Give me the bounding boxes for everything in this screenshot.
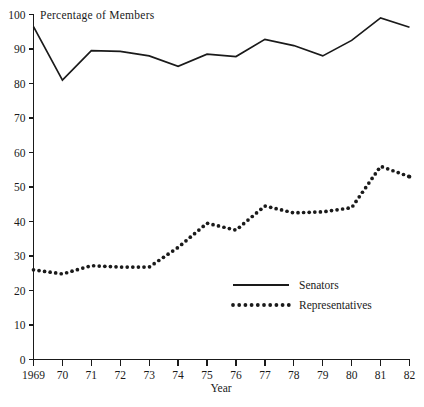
series-dot (238, 225, 242, 229)
legend-swatch-dot (237, 303, 241, 307)
series-dot (217, 224, 221, 228)
legend-label: Senators (299, 279, 339, 291)
series-dot (364, 186, 368, 190)
x-axis-tick-label: 75 (201, 369, 213, 381)
series-dot (302, 211, 306, 215)
series-dot (386, 167, 390, 171)
x-axis: 196970717273747576777879808182 (22, 360, 416, 381)
x-axis-tick-label: 1969 (22, 369, 45, 381)
series-dot (391, 169, 395, 173)
series-dot (59, 272, 63, 276)
chart-container: 0102030405060708090100 19697071727374757… (0, 0, 424, 407)
series-dot (81, 266, 85, 270)
legend-swatch-dot (287, 303, 291, 307)
series-dot (148, 265, 152, 269)
y-axis-tick-label: 40 (14, 216, 26, 228)
legend-swatch-dot (231, 303, 235, 307)
series-dot (335, 208, 339, 212)
series-dot (70, 269, 74, 273)
series-dot (97, 264, 101, 268)
series-dot (296, 211, 300, 215)
series-dot (228, 227, 232, 231)
series-dot (162, 256, 166, 260)
line-chart: 0102030405060708090100 19697071727374757… (0, 0, 424, 407)
x-axis-tick-label: 72 (115, 369, 127, 381)
series-dot (246, 218, 250, 222)
legend-entry-representatives[interactable]: Representatives (231, 299, 372, 312)
series-dot (346, 206, 350, 210)
legend-swatch-dot (244, 303, 248, 307)
series-representatives (32, 165, 412, 276)
y-axis-tick-label: 20 (14, 285, 26, 297)
series-dot (114, 265, 118, 269)
series-dot (109, 265, 113, 269)
series-dot (188, 235, 192, 239)
series-dot (131, 265, 135, 269)
y-axis-tick-label: 90 (14, 43, 26, 55)
x-axis-label: Year (210, 382, 231, 394)
series-dot (125, 265, 129, 269)
series-dot (367, 181, 371, 185)
series-dot (103, 264, 107, 268)
y-axis-tick-label: 10 (14, 319, 26, 331)
y-axis-tick-label: 60 (14, 147, 26, 159)
x-axis-tick-label: 78 (288, 369, 300, 381)
legend-swatch-dot (268, 303, 272, 307)
x-axis-tick-label: 81 (375, 369, 387, 381)
series-dot (307, 210, 311, 214)
series-dot (354, 200, 358, 204)
series-dot (37, 269, 41, 273)
series-dot (274, 207, 278, 211)
series-dot (92, 264, 96, 268)
legend-swatch-dot (250, 303, 254, 307)
series-dot (370, 177, 374, 181)
x-axis-tick-label: 74 (172, 369, 184, 381)
y-axis: 0102030405060708090100 (8, 9, 33, 366)
x-axis-tick-label: 70 (57, 369, 69, 381)
legend-swatch-dot (262, 303, 266, 307)
x-axis-tick-label: 80 (346, 369, 358, 381)
series-dot (86, 265, 90, 269)
series-dot (120, 265, 124, 269)
series-dot (330, 209, 334, 213)
x-axis-tick-label: 73 (143, 369, 155, 381)
series-dot (324, 210, 328, 214)
series-dot (206, 222, 210, 226)
series-dot (242, 222, 246, 226)
series-dot (157, 259, 161, 263)
series-dot (201, 225, 205, 229)
series-dot (319, 210, 323, 214)
y-axis-tick-label: 50 (14, 181, 26, 193)
series-dot (269, 206, 273, 210)
x-axis-tick-label: 82 (404, 369, 416, 381)
chart-legend: SenatorsRepresentatives (231, 279, 372, 312)
legend-label: Representatives (299, 299, 372, 312)
series-dot (259, 207, 263, 211)
series-dot (313, 210, 317, 214)
y-axis-tick-label: 70 (14, 112, 26, 124)
series-dot (193, 232, 197, 236)
series-dot (341, 207, 345, 211)
series-dot (43, 270, 47, 274)
series-dot (402, 173, 406, 177)
series-dot (250, 215, 254, 219)
legend-swatch-dot (256, 303, 260, 307)
series-line-solid (34, 18, 410, 80)
series-dot (291, 211, 295, 215)
series-dot (351, 204, 355, 208)
series-senators (34, 18, 410, 80)
y-axis-tick-label: 0 (20, 354, 26, 366)
series-dot (255, 211, 259, 215)
legend-entry-senators[interactable]: Senators (233, 279, 339, 291)
legend-swatch-dot (281, 303, 285, 307)
series-dot (381, 165, 385, 169)
y-axis-tick-label: 80 (14, 78, 26, 90)
series-dot (233, 228, 237, 232)
x-axis-tick-label: 79 (317, 369, 329, 381)
series-dot (48, 270, 52, 274)
x-axis-tick-label: 77 (259, 369, 271, 381)
series-dot (361, 190, 365, 194)
series-dot (197, 228, 201, 232)
series-dot (137, 265, 141, 269)
series-dot (373, 172, 377, 176)
